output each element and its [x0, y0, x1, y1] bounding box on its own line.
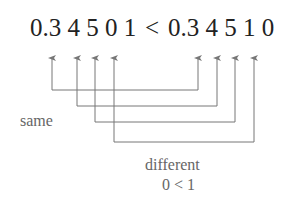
connector-diagram	[0, 0, 296, 216]
connector-digit-4	[77, 58, 217, 106]
connector-digit-3	[52, 58, 198, 90]
different-label: different	[145, 156, 200, 174]
comparison-reason: 0 < 1	[162, 176, 195, 194]
connector-differing-digit	[114, 58, 254, 142]
same-label: same	[20, 112, 53, 130]
